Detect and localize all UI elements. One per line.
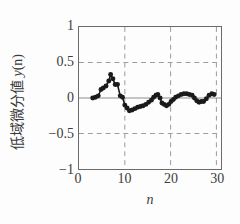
data-point [212,92,217,97]
y-axis-label-variable: y [10,70,25,76]
y-axis-label-arg: (n) [10,54,25,70]
plot-canvas [79,27,221,169]
x-axis-label: n [78,192,222,208]
x-tick-label: 0 [75,171,82,187]
data-point [104,83,109,88]
data-point [120,95,125,100]
x-tick-label: 20 [164,171,178,187]
figure-chart: 低域微分値 y(n) 1 0.5 0 −0.5 −1 0 10 20 30 [0,0,240,224]
data-point [108,72,113,77]
y-tick-label: −0.5 [34,126,74,142]
data-point [158,96,163,101]
y-axis-label-text: 低域微分値 [10,77,25,151]
data-series [90,72,216,113]
data-point [96,93,101,98]
y-tick-label: 1 [34,18,74,34]
data-point [115,82,120,87]
x-axis-tick-labels: 0 10 20 30 [78,171,222,193]
y-axis-label-container: 低域微分値 y(n) [2,12,30,192]
data-point [110,76,115,81]
y-tick-label: 0.5 [34,54,74,70]
y-tick-label: 0 [34,90,74,106]
x-tick-label: 30 [210,171,224,187]
y-tick-label: −1 [34,162,74,178]
y-axis-label: 低域微分値 y(n) [6,54,26,150]
x-tick-label: 10 [117,171,131,187]
y-axis-tick-labels: 1 0.5 0 −0.5 −1 [32,0,74,224]
plot-area [78,26,222,170]
